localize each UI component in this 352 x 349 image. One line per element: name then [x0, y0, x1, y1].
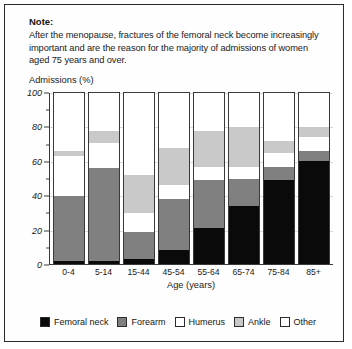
bar-group: [50, 93, 333, 264]
note-body: After the menopause, fractures of the fe…: [29, 29, 327, 67]
legend-item[interactable]: Forearm: [117, 317, 165, 327]
bar-segment-other: [194, 93, 224, 131]
x-tick-label: 65-74: [229, 267, 259, 277]
y-tick-label: 40: [32, 191, 42, 201]
bar-column[interactable]: [54, 93, 84, 264]
bar-segment-ankle: [89, 131, 119, 143]
legend-label: Humerus: [189, 317, 226, 327]
x-tick-label: 75-84: [264, 267, 294, 277]
bar-segment-femoral: [159, 250, 189, 264]
bar-segment-forearm: [54, 196, 84, 261]
bar-segment-other: [229, 93, 259, 127]
bar-segment-humerus: [264, 153, 294, 167]
y-tick-label: 20: [32, 226, 42, 236]
x-tick-label: 0-4: [54, 267, 84, 277]
note-title: Note:: [29, 15, 327, 28]
bar-segment-other: [54, 93, 84, 151]
bar-column[interactable]: [229, 93, 259, 264]
bar-column[interactable]: [264, 93, 294, 264]
bar-segment-other: [299, 93, 329, 127]
bar-segment-femoral: [124, 259, 154, 264]
legend-swatch: [40, 317, 50, 327]
bar-segment-humerus: [159, 185, 189, 199]
x-tick-label: 55-64: [194, 267, 224, 277]
bar-segment-forearm: [159, 199, 189, 250]
y-axis-title: Admissions (%): [29, 75, 94, 85]
figure-frame: Note: After the menopause, fractures of …: [4, 4, 344, 342]
bar-column[interactable]: [89, 93, 119, 264]
y-tick-label: 60: [32, 157, 42, 167]
bar-segment-ankle: [159, 148, 189, 186]
bar-segment-ankle: [124, 175, 154, 213]
bar-segment-forearm: [194, 180, 224, 228]
bar-segment-other: [124, 93, 154, 175]
x-tick-label: 85+: [299, 267, 329, 277]
x-axis-title: Age (years): [49, 280, 333, 290]
legend-item[interactable]: Ankle: [234, 317, 271, 327]
bar-segment-ankle: [229, 127, 259, 166]
bar-segment-forearm: [124, 232, 154, 259]
bar-segment-other: [264, 93, 294, 141]
y-tick-label: 80: [32, 122, 42, 132]
bar-segment-humerus: [54, 156, 84, 195]
bar-column[interactable]: [124, 93, 154, 264]
legend-swatch: [175, 317, 185, 327]
bar-segment-femoral: [299, 161, 329, 264]
legend-swatch: [234, 317, 244, 327]
legend-swatch: [117, 317, 127, 327]
bar-segment-ankle: [299, 127, 329, 137]
y-tick-label: 0: [37, 260, 42, 270]
bar-segment-forearm: [229, 179, 259, 206]
bar-column[interactable]: [194, 93, 224, 264]
x-tick-label: 45-54: [159, 267, 189, 277]
x-tick-label: 5-14: [89, 267, 119, 277]
legend-label: Ankle: [248, 317, 271, 327]
plot-area: [49, 93, 333, 265]
legend-label: Forearm: [131, 317, 165, 327]
legend-label: Other: [294, 317, 317, 327]
legend-item[interactable]: Femoral neck: [40, 317, 109, 327]
bar-segment-femoral: [229, 206, 259, 264]
bar-column[interactable]: [299, 93, 329, 264]
bar-column[interactable]: [159, 93, 189, 264]
x-axis-ticks: 0-45-1415-4445-5455-6465-7475-8485+: [49, 267, 333, 277]
bar-segment-ankle: [194, 131, 224, 167]
bar-segment-forearm: [89, 168, 119, 260]
chart-legend: Femoral neckForearmHumerusAnkleOther: [23, 317, 333, 327]
legend-swatch: [280, 317, 290, 327]
y-axis-ticks: 020406080100: [23, 93, 49, 265]
legend-item[interactable]: Other: [280, 317, 317, 327]
y-tick-label: 100: [27, 88, 42, 98]
bar-segment-other: [89, 93, 119, 131]
bar-segment-humerus: [229, 167, 259, 179]
legend-item[interactable]: Humerus: [175, 317, 226, 327]
bar-segment-femoral: [54, 261, 84, 264]
chart-plot: 020406080100 0-45-1415-4445-5455-6465-74…: [23, 93, 333, 275]
bar-segment-other: [159, 93, 189, 148]
bar-segment-ankle: [264, 141, 294, 153]
bar-segment-femoral: [194, 228, 224, 264]
x-tick-label: 15-44: [124, 267, 154, 277]
legend-label: Femoral neck: [54, 317, 109, 327]
bar-segment-femoral: [89, 261, 119, 264]
bar-segment-humerus: [89, 143, 119, 169]
bar-segment-forearm: [264, 167, 294, 181]
note-block: Note: After the menopause, fractures of …: [29, 15, 327, 67]
bar-segment-femoral: [264, 180, 294, 264]
bar-segment-humerus: [124, 213, 154, 232]
bar-segment-humerus: [194, 167, 224, 181]
bar-segment-forearm: [299, 151, 329, 161]
bar-segment-humerus: [299, 137, 329, 151]
